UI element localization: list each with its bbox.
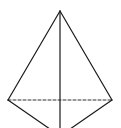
edge-apex-left bbox=[8, 11, 60, 100]
edge-right-front bbox=[60, 100, 112, 128]
tetrahedron-figure bbox=[0, 0, 121, 128]
edge-left-front bbox=[8, 100, 60, 128]
edge-apex-right bbox=[60, 11, 112, 100]
edges bbox=[8, 11, 112, 128]
tetrahedron-diagram bbox=[0, 0, 121, 128]
